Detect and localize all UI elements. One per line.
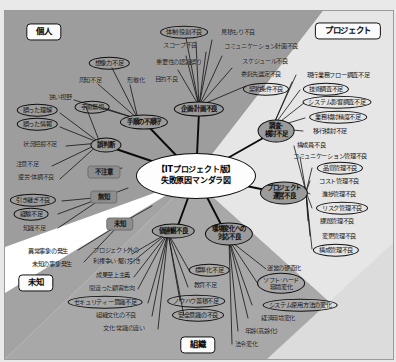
node-教育不足: 教育不足 — [194, 282, 217, 289]
node-品質管理不良: 品質管理不良 — [317, 162, 363, 175]
connector-line — [229, 240, 248, 318]
hub-values: 価値観不良 — [152, 224, 195, 239]
center-title-node: 【ITプロジェクト版】 失敗原因マンダラ図 — [136, 153, 256, 199]
node-業務検討精度不足: 業務検討精度不足 — [309, 111, 367, 124]
node-体制·役割不良: 体制·役割不良 — [160, 26, 208, 39]
center-title-line1: 【ITプロジェクト版】 — [157, 165, 235, 176]
node-知識不足: 知識不足 — [23, 225, 46, 232]
node-年齢(高齢化): 年齢(高齢化) — [245, 328, 278, 335]
node-間違った顧客志向: 間違った顧客志向 — [89, 285, 135, 292]
node-形骸化: 形骸化 — [127, 77, 144, 84]
node-リスク管理不良: リスク管理不良 — [316, 202, 368, 215]
hub-survey-line2: 検討不足 — [265, 131, 288, 139]
center-title-line2: 失敗原因マンダラ図 — [161, 176, 231, 187]
node-利権争い·駆け引き: 利権争い·駆け引き — [93, 258, 140, 265]
connector-line — [134, 233, 168, 277]
node-ノウハウ蓄積不足: ノウハウ蓄積不足 — [167, 295, 225, 308]
node-システム使用方法の変: システム使用方法の変化 — [263, 299, 338, 312]
node-進捗管理不良: 進捗管理不良 — [322, 191, 356, 198]
node-変更管理不良: 変更管理不良 — [322, 233, 356, 240]
hub-envchange-line2: 対応不良 — [212, 234, 246, 242]
node-目的不良: 目的不良 — [155, 76, 178, 83]
connector-line — [152, 233, 168, 316]
node-移行検討不足: 移行検討不足 — [313, 128, 347, 135]
node-状況把握不足: 状況把握不足 — [23, 141, 57, 148]
node-狭い視野: 狭い視野 — [49, 94, 72, 101]
node-プロジェクト外の: プロジェクト外の — [93, 247, 139, 254]
node-重要性の認識誤り: 重要性の認識誤り — [156, 59, 202, 66]
chip-inattention: 不注意 — [87, 166, 120, 179]
node-手順無視: 手順無視 — [75, 101, 110, 114]
connector-line — [168, 233, 188, 287]
node-周知不足: 周知不足 — [79, 77, 102, 84]
node-ソフト·ハード-line2: 環境変化 — [263, 283, 299, 290]
node-文化·常識の違い: 文化·常識の違い — [103, 325, 145, 332]
node-ソフト·ハード-line1: ソフト·ハード — [263, 276, 299, 283]
node-契約条件不良: 契約条件不良 — [243, 83, 289, 96]
node-経験不足: 経験不足 — [14, 208, 49, 221]
node-誤った情報: 誤った情報 — [17, 118, 58, 131]
quadrant-label-unknown: 未知 — [18, 274, 53, 291]
node-構成管理不良: 構成管理不良 — [313, 244, 359, 257]
connector-line — [199, 68, 232, 106]
node-現行業務フロー調査不: 現行業務フロー調査不足 — [307, 72, 370, 79]
connector-line — [148, 233, 168, 303]
hub-pmgmt: プロジェクト運営不良 — [260, 181, 308, 204]
hub-envchange: 環境変化への対応不良 — [205, 222, 253, 245]
node-コミュニケーション管: コミュニケーション管理不良 — [293, 153, 367, 160]
quadrant-label-personal: 個人 — [26, 23, 61, 40]
node-標準化不足: 標準化不足 — [189, 264, 230, 277]
node-コスト管理不良: コスト管理不良 — [319, 178, 359, 185]
node-スケジュール不良: スケジュール不良 — [242, 58, 288, 65]
hub-procedure: 手順の不順守 — [120, 115, 168, 130]
hub-survey: 調査·検討不足 — [258, 119, 295, 142]
connector-line — [229, 240, 258, 284]
connector-line — [199, 40, 212, 106]
hub-plan: 企画·計画不良 — [174, 102, 224, 117]
node-構成員不良: 構成員不良 — [297, 142, 326, 149]
hub-misjudge: 誤判断 — [90, 138, 121, 153]
chip-ignorance: 無知 — [90, 191, 117, 204]
node-誤った理解: 誤った理解 — [17, 104, 58, 117]
node-運営の硬直化: 運営の硬直化 — [267, 265, 301, 272]
mandala-diagram-canvas: 個人 プロジェクト 未知 組織 【ITプロジェクト版】 失敗原因マンダラ図 不注… — [0, 0, 396, 362]
node-疲労·体調不良: 疲労·体調不良 — [18, 174, 54, 181]
node-スコープ不良: スコープ不良 — [163, 42, 197, 49]
node-課題管理不良: 課題管理不良 — [320, 218, 354, 225]
node-見積もり不良: 見積もり不良 — [221, 29, 255, 36]
node-異常事象の発生: 異常事象の発生 — [28, 248, 68, 255]
node-委託先選定不良: 委託先選定不良 — [241, 71, 281, 78]
node-想像力不足: 想像力不足 — [89, 57, 130, 70]
chip-unknown: 未知 — [106, 218, 133, 231]
node-安全意識の不良: 安全意識の不良 — [172, 309, 224, 322]
hub-pmgmt-line2: 運営不良 — [267, 193, 301, 201]
connector-line — [158, 233, 168, 329]
node-注意不足: 注意不足 — [16, 161, 39, 168]
node-法令変化: 法令変化 — [235, 341, 258, 348]
node-技術調査不足: 技術調査不足 — [303, 83, 349, 96]
node-システム影響調査不足: システム影響調査不足 — [302, 96, 371, 109]
node-ソフト·ハード: ソフト·ハード環境変化 — [257, 273, 305, 294]
node-組織文化の不良: 組織文化の不良 — [96, 312, 136, 319]
node-コミュニケーション計: コミュニケーション計画不良 — [224, 43, 298, 50]
node-経済環境変化: 経済環境変化 — [261, 315, 295, 322]
quadrant-label-organization: 組織 — [180, 336, 215, 353]
node-成果至上主義: 成果至上主義 — [96, 272, 130, 279]
node-未知の事象発生: 未知の事象発生 — [32, 261, 72, 268]
node-引き継ぎ不良: 引き継ぎ不良 — [10, 194, 56, 207]
quadrant-label-project: プロジェクト — [315, 22, 381, 39]
node-セキュリティー意識不: セキュリティー意識不足 — [68, 296, 143, 309]
